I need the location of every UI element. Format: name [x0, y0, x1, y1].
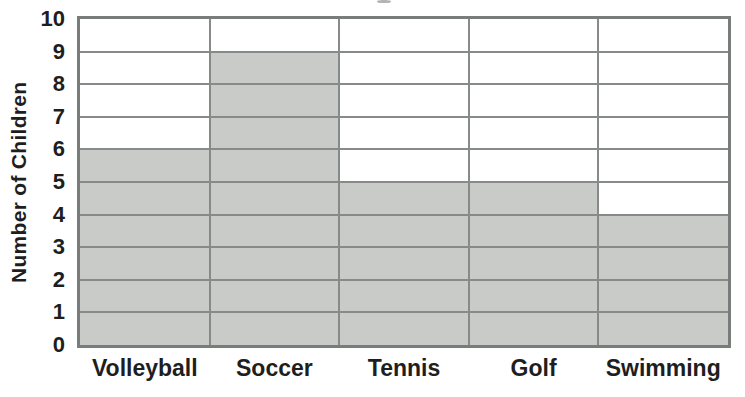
y-tick-label-9: 9: [53, 41, 65, 63]
x-label-tennis: Tennis: [368, 357, 440, 380]
gridline-y-4: [80, 214, 728, 216]
x-label-soccer: Soccer: [236, 357, 313, 380]
gridline-y-6: [80, 148, 728, 150]
gridline-y-2: [80, 279, 728, 281]
y-tick-label-3: 3: [53, 236, 65, 258]
y-axis-tick-labels: 012345678910: [0, 16, 65, 348]
gridline-y-8: [80, 83, 728, 85]
x-axis-category-labels: VolleyballSoccerTennisGolfSwimming: [77, 355, 731, 387]
gridline-y-9: [80, 51, 728, 53]
y-tick-label-7: 7: [53, 106, 65, 128]
y-tick-label-2: 2: [53, 269, 65, 291]
x-label-volleyball: Volleyball: [92, 357, 198, 380]
cropped-title-artifact: [377, 0, 391, 3]
column-separator-1: [209, 19, 211, 345]
gridline-y-5: [80, 181, 728, 183]
y-tick-label-1: 1: [53, 301, 65, 323]
x-label-swimming: Swimming: [606, 357, 721, 380]
column-separator-2: [338, 19, 340, 345]
y-tick-label-0: 0: [53, 334, 65, 356]
bar-golf: [469, 182, 599, 345]
column-separator-4: [597, 19, 599, 345]
y-tick-label-5: 5: [53, 171, 65, 193]
y-tick-label-10: 10: [41, 8, 65, 30]
gridline-y-3: [80, 246, 728, 248]
y-tick-label-8: 8: [53, 73, 65, 95]
x-label-golf: Golf: [511, 357, 557, 380]
y-tick-label-4: 4: [53, 204, 65, 226]
bar-soccer: [210, 52, 340, 345]
y-tick-label-6: 6: [53, 138, 65, 160]
gridline-y-1: [80, 311, 728, 313]
bar-tennis: [339, 182, 469, 345]
bar-chart-figure: Number of Children 012345678910 Volleyba…: [0, 0, 745, 397]
column-separator-3: [468, 19, 470, 345]
plot-area: [77, 16, 731, 348]
gridline-y-7: [80, 116, 728, 118]
